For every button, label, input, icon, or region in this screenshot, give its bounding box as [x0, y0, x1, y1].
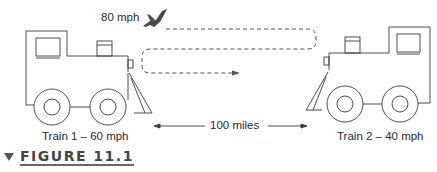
- bird-speed-label: 80 mph: [101, 11, 139, 23]
- train-2-plow: [306, 72, 328, 110]
- train-2-wheel-rear: [382, 86, 418, 122]
- bird-flight-path: [142, 29, 316, 73]
- caption-triangle-icon: [4, 153, 14, 161]
- train-1-wheel-rear: [34, 89, 70, 125]
- train-1-cab-outline: [26, 31, 128, 72]
- train-1-headlight: [128, 60, 133, 68]
- bird-icon: [143, 9, 167, 27]
- train-problem-diagram: 80 mph 100 miles Train 1 – 60 mph Train …: [0, 0, 437, 172]
- distance-label: 100 miles: [210, 119, 259, 131]
- train-2-chimney: [345, 37, 360, 53]
- train-1: [26, 31, 152, 125]
- train-1-wheel-front: [90, 89, 126, 125]
- train-1-label: Train 1 – 60 mph: [42, 130, 129, 142]
- train-2-window: [397, 34, 420, 52]
- train-2: [306, 27, 430, 122]
- train-1-chimney: [97, 41, 112, 56]
- train-2-wheel-front: [327, 86, 363, 122]
- diagram-graphics: [0, 0, 437, 172]
- figure-caption: FIGURE 11.1: [4, 148, 134, 166]
- figure-number: FIGURE 11.1: [20, 148, 134, 166]
- train-2-headlight: [324, 57, 329, 65]
- train-2-cab-outline: [329, 27, 430, 70]
- train-2-label: Train 2 – 40 mph: [337, 130, 424, 142]
- flight-arrowhead: [232, 71, 240, 76]
- train-1-cab-back: [26, 31, 34, 105]
- train-1-window: [36, 38, 60, 56]
- train-1-plow: [129, 73, 152, 113]
